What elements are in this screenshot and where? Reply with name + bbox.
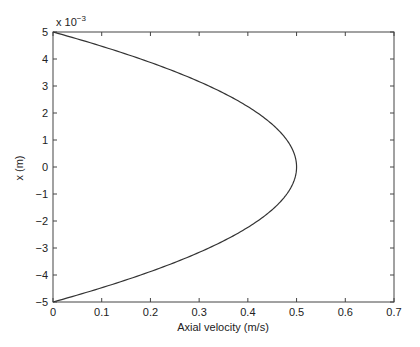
- y-tick-label: 0: [42, 161, 48, 173]
- y-tick-label: 3: [42, 80, 48, 92]
- y-tick-label: −1: [35, 188, 48, 200]
- chart: 00.10.20.30.40.50.60.7 −5−4−3−2−1012345 …: [0, 0, 420, 347]
- y-tick-label: 4: [42, 53, 48, 65]
- y-tick-label: 2: [42, 107, 48, 119]
- x-tick-label: 0.4: [240, 306, 255, 318]
- x-tick-label: 0.6: [338, 306, 353, 318]
- x-tick-label: 0.1: [94, 306, 109, 318]
- y-tick-label: 5: [42, 26, 48, 38]
- x-axis-ticks: 00.10.20.30.40.50.60.7: [50, 32, 402, 318]
- x-tick-label: 0.7: [386, 306, 401, 318]
- y-axis-exponent: x 10−3: [56, 14, 86, 28]
- axes-frame: [53, 32, 394, 302]
- y-tick-label: −2: [35, 215, 48, 227]
- y-axis-ticks: −5−4−3−2−1012345: [35, 26, 394, 308]
- y-tick-label: −5: [35, 296, 48, 308]
- y-tick-label: −4: [35, 269, 48, 281]
- x-tick-label: 0: [50, 306, 56, 318]
- x-tick-label: 0.2: [143, 306, 158, 318]
- velocity-profile-line: [53, 32, 297, 302]
- x-tick-label: 0.5: [289, 306, 304, 318]
- y-tick-label: −3: [35, 242, 48, 254]
- x-tick-label: 0.3: [191, 306, 206, 318]
- y-axis-label: x (m): [13, 155, 25, 180]
- x-axis-label: Axial velocity (m/s): [177, 321, 269, 333]
- y-tick-label: 1: [42, 134, 48, 146]
- plot-area: 00.10.20.30.40.50.60.7 −5−4−3−2−1012345: [35, 26, 401, 318]
